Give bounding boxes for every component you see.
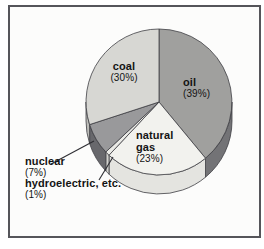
figure-panel: coal (30%) oil (39%) natural gas (23%) n… (0, 0, 264, 249)
oil-label-percent: (39%) (183, 89, 210, 100)
coal-label-percent: (30%) (98, 73, 150, 84)
coal-label: coal (30%) (98, 61, 150, 84)
hydroelectric-label-percent: (1%) (25, 190, 140, 201)
nuclear-label: nuclear (7%) (25, 156, 65, 179)
natural-gas-label-name: natural gas (136, 130, 184, 154)
natural-gas-label-percent: (23%) (136, 154, 184, 165)
natural-gas-label: natural gas (23%) (136, 130, 184, 165)
oil-label: oil (39%) (183, 77, 210, 100)
pie-rim-hydroelectric (106, 152, 109, 174)
hydroelectric-label: hydroelectric, etc. (1%) (25, 178, 140, 201)
pie-chart (0, 0, 264, 249)
